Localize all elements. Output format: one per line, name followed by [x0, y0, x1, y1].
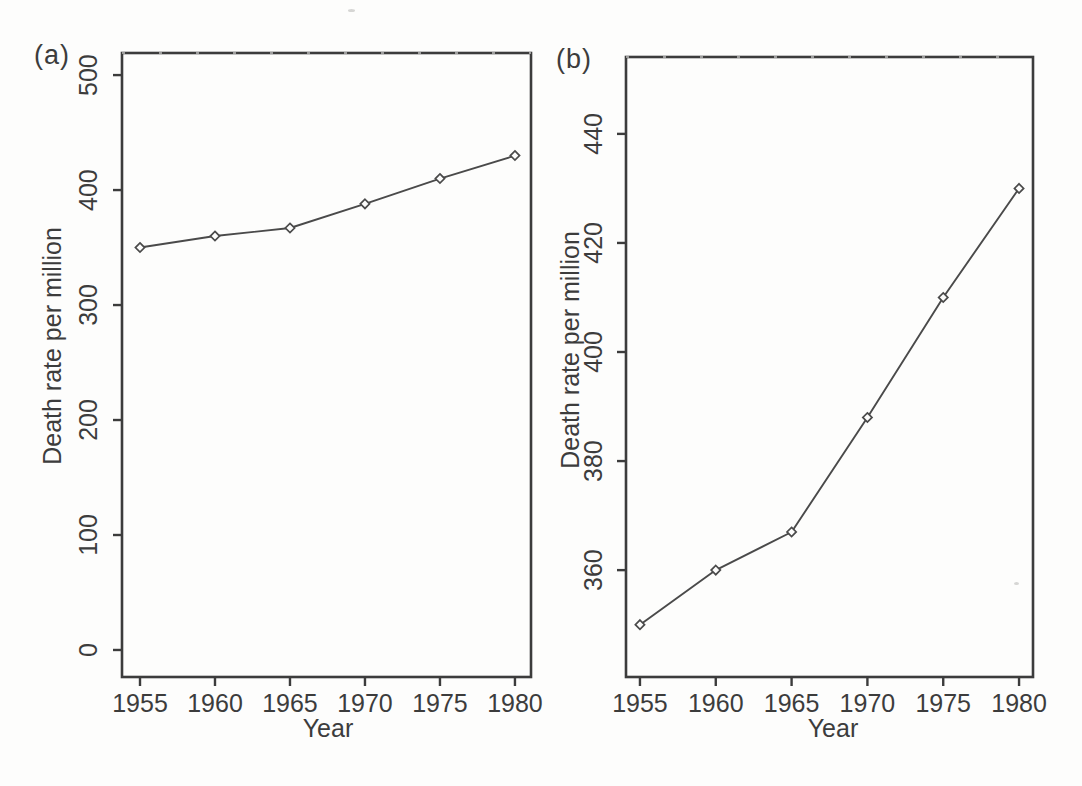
- chart-a-data-point-marker: [285, 223, 294, 232]
- chart-a-y-tick-label: 0: [74, 643, 102, 657]
- chart-a-x-tick-label: 1975: [412, 689, 468, 717]
- chart-a-x-tick-label: 1955: [112, 689, 168, 717]
- chart-b-y-tick-label: 360: [579, 549, 607, 591]
- chart-b-x-tick-label: 1960: [688, 689, 744, 717]
- chart-a-x-tick-label: 1980: [487, 689, 543, 717]
- chart-a-x-tick-label: 1960: [187, 689, 243, 717]
- chart-a-data-point-marker: [360, 199, 369, 208]
- scanned-figure-page: 1955196019651970197519800100200300400500…: [0, 0, 1082, 786]
- scan-artifact: [348, 9, 355, 12]
- panel-b-label: (b): [556, 44, 592, 75]
- scan-artifact: [1014, 582, 1019, 585]
- panel-a-label: (a): [34, 40, 70, 71]
- chart-a-data-line: [140, 156, 515, 248]
- chart-b-y-axis-title: Death rate per million: [556, 231, 585, 469]
- chart-a-data-point-marker: [210, 231, 219, 240]
- chart-a-data-point-marker: [135, 243, 144, 252]
- chart-a-y-tick-label: 300: [74, 284, 102, 326]
- chart-a-y-tick-label: 400: [74, 169, 102, 211]
- chart-b-y-tick-label: 440: [579, 113, 607, 155]
- chart-b-x-axis-title: Year: [808, 714, 859, 743]
- chart-b-x-tick-label: 1955: [612, 689, 668, 717]
- chart-b-data-line: [640, 188, 1019, 624]
- chart-a-data-point-marker: [435, 174, 444, 183]
- chart-a-x-axis-title: Year: [303, 714, 354, 743]
- chart-a-y-axis-title: Death rate per million: [38, 227, 67, 465]
- chart-b-x-tick-label: 1975: [915, 689, 971, 717]
- chart-a-plot-frame: [122, 53, 531, 677]
- chart-a-data-point-marker: [510, 151, 519, 160]
- chart-a-y-tick-label: 100: [74, 514, 102, 556]
- dual-line-chart-canvas: 1955196019651970197519800100200300400500…: [0, 0, 1082, 786]
- chart-b-plot-frame: [626, 57, 1033, 677]
- chart-a-y-tick-label: 500: [74, 54, 102, 96]
- chart-b-x-tick-label: 1980: [991, 689, 1047, 717]
- chart-a-y-tick-label: 200: [74, 399, 102, 441]
